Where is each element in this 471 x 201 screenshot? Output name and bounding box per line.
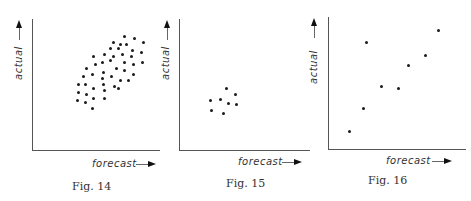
data-point [365, 41, 368, 44]
data-point [437, 29, 440, 32]
scatter-plot [0, 0, 471, 201]
data-point [348, 130, 351, 133]
data-point [362, 107, 365, 110]
data-point [424, 54, 427, 57]
data-point [397, 87, 400, 90]
data-point [407, 64, 410, 67]
data-point [380, 85, 383, 88]
